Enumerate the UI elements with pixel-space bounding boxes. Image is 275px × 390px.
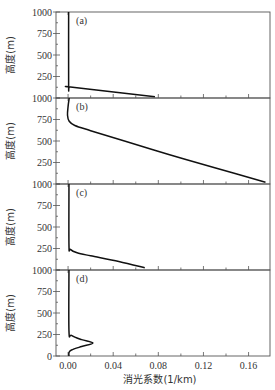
panel-frame (56, 184, 270, 270)
y-tick-label: 750 (37, 286, 52, 297)
y-tick-label: 1000 (32, 93, 52, 104)
y-tick-label: 1000 (32, 7, 52, 18)
panel-c: 7505002501000(c)高度(m) (4, 184, 270, 276)
x-axis: 0.000.040.080.120.16 (59, 360, 257, 371)
panel-a: 10007505002501000(a)高度(m) (4, 7, 270, 104)
y-axis-title: 高度(m) (4, 208, 16, 246)
panel-frame (56, 98, 270, 184)
panel-label: (a) (76, 15, 87, 27)
data-line (67, 98, 265, 182)
y-tick-label: 250 (37, 71, 52, 82)
y-axis-title: 高度(m) (4, 294, 16, 332)
y-tick-label: 500 (37, 308, 52, 319)
panel-d: 7505002500(d)高度(m) (4, 270, 270, 362)
y-tick-label: 0 (47, 351, 52, 362)
extinction-coefficient-chart: 10007505002501000(a)高度(m)7505002501000(b… (0, 0, 275, 390)
x-tick-label: 0.08 (150, 360, 168, 371)
x-tick-label: 0.00 (59, 360, 77, 371)
y-axis-title: 高度(m) (4, 122, 16, 160)
y-axis-title: 高度(m) (4, 36, 16, 74)
panel-label: (c) (76, 187, 87, 199)
y-tick-label: 500 (37, 136, 52, 147)
y-tick-label: 1000 (32, 265, 52, 276)
panel-frame (56, 12, 270, 98)
y-tick-label: 750 (37, 28, 52, 39)
panel-b: 7505002501000(b)高度(m) (4, 98, 270, 190)
y-tick-label: 1000 (32, 179, 52, 190)
x-tick-label: 0.04 (104, 360, 122, 371)
x-axis-title: 消光系数(1/km) (123, 373, 196, 385)
panel-label: (d) (76, 273, 88, 285)
y-tick-label: 750 (37, 114, 52, 125)
panel-label: (b) (76, 101, 88, 113)
x-tick-label: 0.16 (240, 360, 258, 371)
y-tick-label: 250 (37, 329, 52, 340)
y-tick-label: 750 (37, 200, 52, 211)
y-tick-label: 500 (37, 50, 52, 61)
y-tick-label: 250 (37, 157, 52, 168)
y-tick-label: 500 (37, 222, 52, 233)
y-tick-label: 250 (37, 243, 52, 254)
panel-frame (56, 270, 270, 356)
x-tick-label: 0.12 (195, 360, 213, 371)
panels: 10007505002501000(a)高度(m)7505002501000(b… (4, 7, 270, 362)
